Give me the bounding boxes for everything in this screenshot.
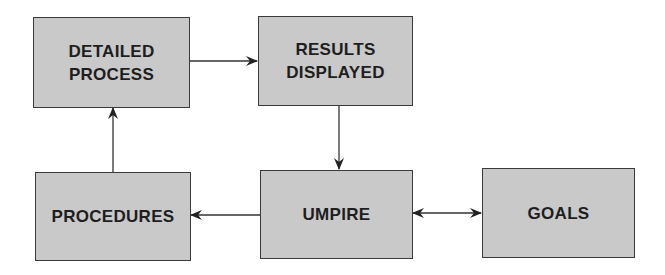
node-detailed-process: DETAILED PROCESS [33, 17, 190, 108]
node-label: UMPIRE [303, 203, 371, 226]
node-umpire: UMPIRE [260, 170, 413, 259]
node-goals: GOALS [482, 168, 635, 258]
node-results-displayed: RESULTS DISPLAYED [258, 16, 413, 106]
node-label-line: PROCESS [68, 63, 154, 86]
node-label-line: DETAILED [68, 40, 154, 63]
node-label: PROCEDURES [52, 205, 175, 228]
node-label: GOALS [528, 202, 590, 225]
node-label-line: RESULTS [286, 38, 384, 61]
node-label-line: DISPLAYED [286, 61, 384, 84]
node-procedures: PROCEDURES [35, 172, 191, 261]
